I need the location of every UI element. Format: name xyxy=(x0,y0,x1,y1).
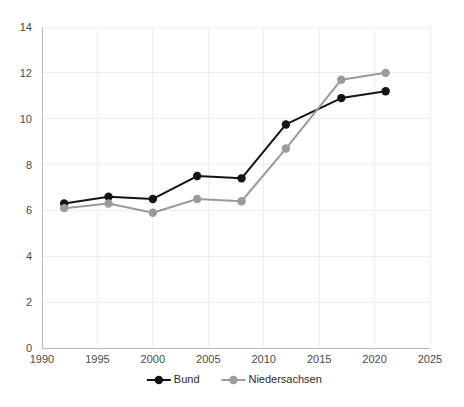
data-point[interactable] xyxy=(337,94,345,102)
legend-label: Bund xyxy=(174,373,200,385)
data-point[interactable] xyxy=(149,209,157,217)
series-line-niedersachsen xyxy=(64,73,385,213)
x-tick-label: 2005 xyxy=(196,353,220,365)
chart-legend: BundNiedersachsen xyxy=(147,373,322,385)
data-point[interactable] xyxy=(337,76,345,84)
y-tick-label: 12 xyxy=(20,67,32,79)
data-point[interactable] xyxy=(149,195,157,203)
data-point[interactable] xyxy=(282,120,290,128)
data-point[interactable] xyxy=(381,87,389,95)
y-tick-label: 14 xyxy=(20,21,32,33)
data-point[interactable] xyxy=(282,144,290,152)
data-point[interactable] xyxy=(104,199,112,207)
data-point[interactable] xyxy=(381,69,389,77)
data-point[interactable] xyxy=(60,204,68,212)
x-axis-tick-labels: 19901995200020052010201520202025 xyxy=(30,353,442,365)
y-tick-label: 2 xyxy=(26,296,32,308)
legend-item-niedersachsen[interactable]: Niedersachsen xyxy=(221,373,321,385)
data-point[interactable] xyxy=(237,197,245,205)
data-point[interactable] xyxy=(237,174,245,182)
data-point[interactable] xyxy=(193,195,201,203)
chart-canvas: 0246810121419901995200020052010201520202… xyxy=(0,0,464,407)
series-bund xyxy=(60,87,390,208)
legend-swatch-marker xyxy=(229,376,237,384)
x-tick-label: 1990 xyxy=(30,353,54,365)
line-chart: 0246810121419901995200020052010201520202… xyxy=(0,0,464,407)
x-tick-label: 2025 xyxy=(418,353,442,365)
y-axis-tick-labels: 02468101214 xyxy=(20,21,32,354)
series-line-bund xyxy=(64,91,385,203)
x-tick-label: 1995 xyxy=(85,353,109,365)
legend-label: Niedersachsen xyxy=(248,373,321,385)
x-tick-label: 2010 xyxy=(251,353,275,365)
y-tick-label: 10 xyxy=(20,113,32,125)
data-point[interactable] xyxy=(193,172,201,180)
y-tick-label: 8 xyxy=(26,159,32,171)
x-tick-label: 2020 xyxy=(362,353,386,365)
y-tick-label: 6 xyxy=(26,204,32,216)
legend-item-bund[interactable]: Bund xyxy=(147,373,200,385)
x-tick-label: 2015 xyxy=(307,353,331,365)
x-tick-label: 2000 xyxy=(141,353,165,365)
y-tick-label: 4 xyxy=(26,250,32,262)
legend-swatch-marker xyxy=(155,376,163,384)
